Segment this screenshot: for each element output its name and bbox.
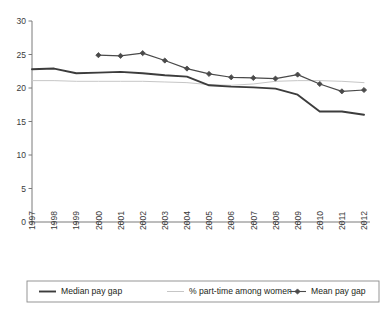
y-axis-tick-label: 15 xyxy=(17,117,27,127)
legend-item-label: Mean pay gap xyxy=(311,286,366,296)
y-axis-tick-label: 0 xyxy=(21,217,26,227)
x-axis-tick-label: 2001 xyxy=(116,211,126,230)
y-axis-tick-label: 5 xyxy=(21,184,26,194)
x-axis-tick-label: 2000 xyxy=(94,211,104,230)
x-axis-tick-label: 2004 xyxy=(182,211,192,230)
x-axis-tick-label: 2009 xyxy=(293,211,303,230)
y-axis-tick-label: 10 xyxy=(17,150,27,160)
x-axis-tick-label: 2010 xyxy=(315,211,325,230)
x-axis-tick-label: 2003 xyxy=(160,211,170,230)
chart-legend: Median pay gap% part-time among womenMea… xyxy=(27,281,379,302)
y-axis-tick-label: 30 xyxy=(17,16,27,26)
chart-container: 051015202530 199719981999200020012002200… xyxy=(0,0,386,311)
x-axis-tick-label: 2005 xyxy=(204,211,214,230)
x-axis-tick-label: 2011 xyxy=(337,211,347,230)
legend-item-label: % part-time among women xyxy=(189,286,292,296)
x-axis-tick-label: 1999 xyxy=(71,211,81,230)
legend-item-label: Median pay gap xyxy=(61,286,122,296)
x-axis-tick-label: 2008 xyxy=(271,211,281,230)
x-axis-tick-label: 2012 xyxy=(359,211,369,230)
chart-background xyxy=(0,0,386,311)
y-axis-tick-label: 25 xyxy=(17,50,27,60)
x-axis-tick-label: 2007 xyxy=(249,211,259,230)
x-axis-tick-label: 1997 xyxy=(27,211,37,230)
y-axis-tick-label: 20 xyxy=(17,83,27,93)
x-axis-tick-label: 1998 xyxy=(49,211,59,230)
pay-gap-line-chart: 051015202530 199719981999200020012002200… xyxy=(0,0,386,311)
x-axis-tick-label: 2006 xyxy=(226,211,236,230)
x-axis-tick-label: 2002 xyxy=(138,211,148,230)
